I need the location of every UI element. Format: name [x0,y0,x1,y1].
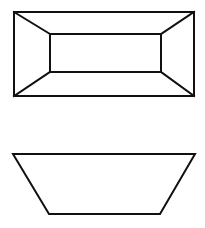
diagram-canvas [0,0,205,228]
edge-bottom-left [14,72,50,96]
top-view-figure [14,12,194,96]
inner-rectangle [50,34,161,72]
outer-rectangle [14,12,194,96]
edge-top-right [161,12,194,34]
edge-top-left [14,12,50,34]
edge-bottom-right [161,72,194,96]
front-view-figure [13,154,195,214]
trapezoid [13,154,195,214]
